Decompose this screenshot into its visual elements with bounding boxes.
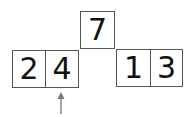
pointer-arrow-icon (54, 91, 68, 115)
cell-value: 2 (19, 54, 38, 84)
left-cell-0: 2 (12, 50, 46, 88)
cell-value: 7 (88, 15, 107, 45)
cell-value: 3 (157, 53, 176, 83)
top-cell: 7 (80, 11, 115, 49)
cell-value: 4 (52, 54, 71, 84)
right-cell-0: 1 (116, 49, 151, 87)
right-cell-1: 3 (150, 49, 183, 87)
left-cell-1: 4 (45, 50, 79, 88)
cell-value: 1 (124, 53, 143, 83)
